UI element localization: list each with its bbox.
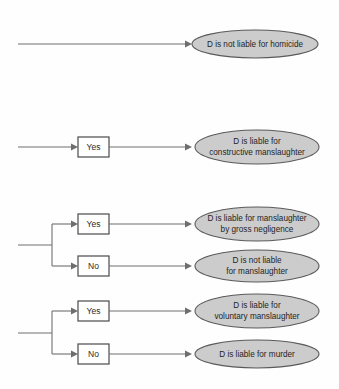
decision-box-yes-2-label: Yes <box>87 219 101 229</box>
decision-box-no-3-label: No <box>88 349 99 359</box>
arrowhead-row2-in <box>71 144 78 151</box>
row-1-group: D is not liable for homicide <box>18 30 318 58</box>
outcome-gross-negligence-label-line2: by gross negligence <box>221 225 294 234</box>
flowchart-diagram: D is not liable for homicide Yes D is li… <box>0 0 339 389</box>
arrowhead-row4-no-out <box>185 351 192 358</box>
decision-box-yes-3-label: Yes <box>87 306 101 316</box>
row-4-group: Yes D is liable for voluntary manslaught… <box>18 294 319 368</box>
outcome-voluntary-manslaughter-label-line2: voluntary manslaughter <box>214 312 299 321</box>
decision-box-no-2-label: No <box>88 261 99 271</box>
arrowhead-row2-out <box>185 144 192 151</box>
arrowhead-row3-no-out <box>185 263 192 270</box>
outcome-not-liable-homicide-label-line1: D is not liable for homicide <box>207 40 303 49</box>
outcome-not-liable-manslaughter-label-line2: for manslaughter <box>226 267 288 276</box>
arrowhead-row3-yes-out <box>185 221 192 228</box>
outcome-not-liable-manslaughter-label-line1: D is not liable <box>232 256 282 265</box>
flowchart-canvas: D is not liable for homicide Yes D is li… <box>0 0 339 389</box>
row-2-group: Yes D is liable for constructive manslau… <box>18 130 319 164</box>
arrowhead-row3-yes-in <box>71 221 78 228</box>
arrowhead-row4-yes-out <box>185 308 192 315</box>
outcome-gross-negligence-label-line1: D is liable for manslaughter <box>207 214 306 223</box>
outcome-murder-label-line1: D is liable for murder <box>219 350 295 359</box>
arrowhead-row4-no-in <box>71 351 78 358</box>
arrowhead-row1-main <box>185 41 192 48</box>
outcome-constructive-manslaughter-label-line1: D is liable for <box>233 137 281 146</box>
row-3-group: Yes D is liable for manslaughter by gros… <box>18 207 319 282</box>
decision-box-yes-1-label: Yes <box>87 142 101 152</box>
arrowhead-row3-no-in <box>71 263 78 270</box>
outcome-constructive-manslaughter-label-line2: constructive manslaughter <box>209 148 305 157</box>
arrowhead-row4-yes-in <box>71 308 78 315</box>
outcome-voluntary-manslaughter-label-line1: D is liable for <box>233 301 281 310</box>
